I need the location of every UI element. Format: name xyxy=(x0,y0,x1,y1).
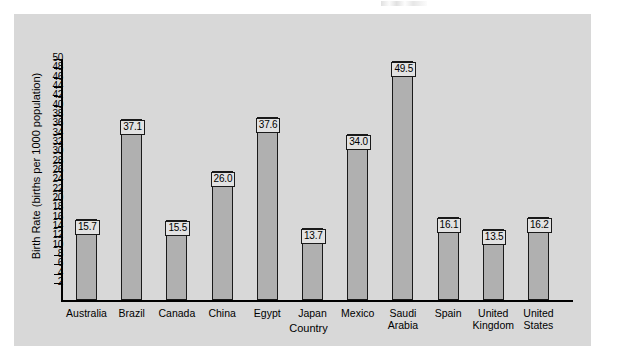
bar-value-label: 16.1 xyxy=(437,218,462,233)
bar-value-label: 15.5 xyxy=(165,221,190,236)
bar xyxy=(347,134,368,300)
x-axis-tick-label: Spain xyxy=(426,307,471,319)
plot-area: 15.737.115.526.037.613.734.049.516.113.5… xyxy=(61,59,566,299)
y-axis-title: Birth Rate (births per 1000 population) xyxy=(30,51,42,281)
bar xyxy=(257,117,278,300)
bar xyxy=(121,119,142,300)
bar-value-label: 37.1 xyxy=(120,120,145,135)
y-axis-tick-label: 2 xyxy=(39,276,63,288)
bar-value-label: 49.5 xyxy=(391,62,416,77)
x-axis-tick-label: Japan xyxy=(290,307,335,319)
x-axis-tick-label: China xyxy=(200,307,245,319)
bar-value-label: 13.7 xyxy=(301,229,326,244)
y-axis-tick: 2 xyxy=(14,283,63,284)
bar-value-label: 16.2 xyxy=(527,218,552,233)
x-axis-tick-label: Mexico xyxy=(335,307,380,319)
x-axis-tick-label: Canada xyxy=(154,307,199,319)
x-axis-tick-label: Brazil xyxy=(109,307,154,319)
bar-value-label: 13.5 xyxy=(482,230,507,245)
x-axis-tick-label: Egypt xyxy=(245,307,290,319)
bar-value-label: 26.0 xyxy=(211,172,236,187)
bar-value-label: 15.7 xyxy=(75,220,100,235)
chart-panel: 5048464442403836343230282624222018161412… xyxy=(14,14,591,346)
x-axis-line xyxy=(61,300,573,302)
bar xyxy=(212,171,233,300)
bar-value-label: 34.0 xyxy=(346,135,371,150)
bar xyxy=(392,61,413,300)
x-axis-title: Country xyxy=(0,322,617,334)
bar-value-label: 37.6 xyxy=(256,118,281,133)
chart-figure: 5048464442403836343230282624222018161412… xyxy=(0,0,617,359)
scan-artifact xyxy=(381,1,427,6)
x-axis-tick-label: Australia xyxy=(64,307,109,319)
